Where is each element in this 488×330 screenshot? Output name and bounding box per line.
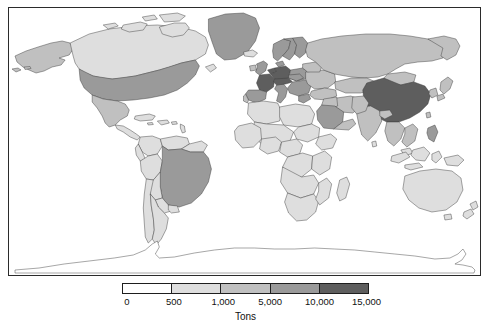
island-ellesmere (159, 13, 185, 22)
country-ireland (250, 65, 257, 71)
country-nigeria (260, 137, 282, 154)
world-choropleth-figure: 0 500 1,000 5,000 10,000 15,000 Tons (0, 0, 488, 330)
legend-title: Tons (122, 311, 369, 323)
country-morocco-algeria (248, 101, 282, 124)
island-puerto-rico (171, 122, 177, 125)
island-arctic-small-2 (142, 15, 157, 21)
country-libya-egypt (280, 104, 315, 127)
legend-tick-labels: 0 500 1,000 5,000 10,000 15,000 (122, 294, 369, 310)
legend-tick-4: 10,000 (305, 296, 334, 308)
legend-tick-1: 500 (166, 296, 182, 308)
country-myanmar-thailand (385, 122, 405, 146)
country-brazil (160, 146, 211, 207)
island-newfoundland (205, 64, 216, 72)
country-indonesia-borneo (411, 147, 430, 161)
legend-band-0 (123, 284, 171, 293)
legend-tick-3: 5,000 (258, 296, 282, 308)
country-kenya-tanzania (312, 151, 332, 175)
country-tasmania (444, 214, 452, 220)
island-cuba (134, 114, 155, 121)
island-lesser-antilles (180, 124, 185, 133)
country-taiwan (426, 112, 431, 118)
country-new-zealand-north (470, 201, 478, 210)
country-papua-new-guinea (444, 155, 464, 166)
country-sri-lanka (372, 141, 377, 147)
country-australia (403, 169, 463, 212)
legend-tick-2: 1,000 (211, 296, 235, 308)
country-alaska (15, 41, 73, 73)
island-hispaniola (157, 120, 169, 125)
country-united-kingdom (256, 61, 268, 75)
country-indonesia-sulawesi (432, 151, 442, 163)
world-map (9, 8, 480, 275)
country-madagascar (337, 177, 350, 201)
legend-band-4 (319, 284, 368, 293)
legend: 0 500 1,000 5,000 10,000 15,000 Tons (122, 283, 369, 323)
country-aleutian-islands (12, 68, 21, 72)
legend-tick-5: 15,000 (352, 296, 381, 308)
country-france (257, 74, 275, 92)
country-west-africa (234, 123, 261, 148)
country-philippines (427, 125, 438, 142)
country-italy (275, 84, 288, 103)
legend-band-3 (270, 284, 319, 293)
legend-band-2 (220, 284, 269, 293)
country-indonesia-sumatra (391, 152, 410, 163)
country-denmark (276, 61, 285, 67)
country-indonesia-java (405, 163, 423, 170)
map-frame (8, 7, 481, 276)
island-jamaica (147, 123, 153, 126)
country-new-zealand-south (463, 209, 474, 219)
legend-tick-0: 0 (124, 296, 129, 308)
country-japan (440, 77, 453, 94)
continent-antarctica (15, 241, 475, 273)
region-central-america (115, 125, 140, 140)
legend-band-1 (171, 284, 220, 293)
legend-color-bar (122, 283, 369, 294)
country-switzerland-austria (274, 78, 293, 85)
